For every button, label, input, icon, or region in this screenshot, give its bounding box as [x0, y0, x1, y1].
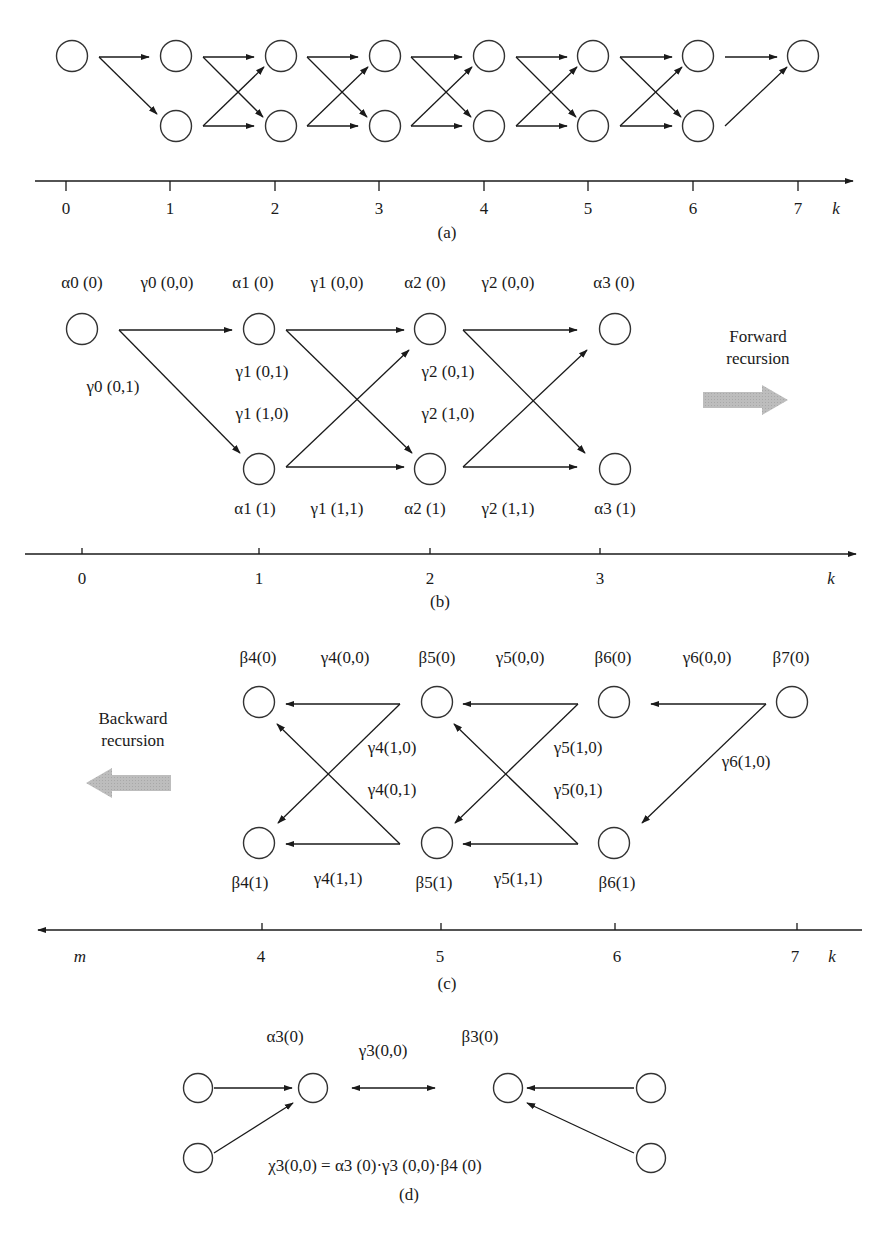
tick-a-6: 6	[689, 199, 698, 218]
label-alpha0-0: α0 (0)	[61, 273, 102, 292]
tick-b-3: 3	[596, 569, 605, 588]
label-beta4-1: β4(1)	[232, 873, 269, 892]
node-b-k1-s1	[244, 454, 275, 485]
node-d-right-top	[637, 1074, 666, 1103]
node-d-left-bottom	[184, 1144, 213, 1173]
tick-c-4: 4	[257, 947, 266, 966]
label-gamma0-00: γ0 (0,0)	[140, 273, 194, 292]
label-gamma4-00: γ4(0,0)	[320, 648, 370, 667]
label-alpha3-0-d: α3(0)	[266, 1027, 303, 1046]
label-gamma6-10: γ6(1,0)	[721, 752, 771, 771]
panel-b-nodes	[67, 314, 631, 485]
label-gamma4-11: γ4(1,1)	[313, 869, 363, 888]
tick-b-0: 0	[78, 569, 87, 588]
panel-c-top-labels: β4(0) γ4(0,0) β5(0) γ5(0,0) β6(0) γ6(0,0…	[240, 648, 810, 667]
node-d-left-top	[184, 1074, 213, 1103]
tick-c-7: 7	[791, 947, 800, 966]
label-alpha3-0: α3 (0)	[593, 273, 634, 292]
tick-a-5: 5	[584, 199, 593, 218]
tick-a-2: 2	[271, 199, 280, 218]
label-gamma1-11: γ1 (1,1)	[310, 499, 364, 518]
node-b-k1-s0	[244, 314, 275, 345]
label-gamma4-01: γ4(0,1)	[367, 780, 417, 799]
node-b-k2-s1	[415, 454, 446, 485]
axis-c-start-label: m	[74, 947, 86, 966]
tick-a-4: 4	[480, 199, 489, 218]
label-beta3-0-d: β3(0)	[462, 1027, 499, 1046]
label-gamma2-11: γ2 (1,1)	[481, 499, 535, 518]
panel-d: α3(0) γ3(0,0) β3(0) χ3(0,0) = α3 (0)·γ3 …	[184, 1027, 666, 1204]
label-gamma2-10: γ2 (1,0)	[421, 404, 475, 423]
node-b-k2-s0	[415, 314, 446, 345]
node-a-k0-s0	[57, 41, 88, 72]
label-gamma5-10: γ5(1,0)	[553, 738, 603, 757]
label-gamma5-01: γ5(0,1)	[553, 780, 603, 799]
node-a-k2-s0	[266, 41, 297, 72]
backward-label-line1: Backward	[99, 709, 168, 728]
node-a-k1-s1	[161, 111, 192, 142]
tick-a-3: 3	[375, 199, 384, 218]
formula: χ3(0,0) = α3 (0)·γ3 (0,0)·β4 (0)	[267, 1156, 482, 1175]
label-beta7-0: β7(0)	[773, 648, 810, 667]
backward-label-line2: recursion	[101, 731, 165, 750]
panel-d-edges	[214, 1088, 634, 1153]
label-gamma2-00: γ2 (0,0)	[481, 273, 535, 292]
tick-b-2: 2	[426, 569, 435, 588]
tick-a-7: 7	[794, 199, 803, 218]
axis-b-label: k	[827, 569, 835, 588]
node-c-k7-s0	[777, 687, 808, 718]
node-a-k4-s1	[474, 111, 505, 142]
tick-a-1: 1	[166, 199, 175, 218]
panel-b-top-labels: α0 (0) γ0 (0,0) α1 (0) γ1 (0,0) α2 (0) γ…	[61, 273, 634, 292]
panel-c-mid-labels: γ4(1,0) γ4(0,1) γ5(1,0) γ5(0,1) γ6(1,0)	[367, 738, 771, 799]
panel-c-edges	[277, 704, 766, 844]
node-c-k6-s1	[599, 828, 630, 859]
tick-a-0: 0	[62, 199, 71, 218]
tick-c-5: 5	[436, 947, 445, 966]
caption-b: (b)	[430, 592, 450, 611]
label-alpha1-0: α1 (0)	[232, 273, 273, 292]
label-beta5-1: β5(1)	[416, 873, 453, 892]
caption-d: (d)	[399, 1185, 419, 1204]
node-b-k3-s1	[600, 454, 631, 485]
forward-label-line1: Forward	[729, 327, 787, 346]
node-d-right-bottom	[637, 1144, 666, 1173]
node-a-k7-s0	[788, 41, 819, 72]
panel-b-mid-labels: γ0 (0,1) γ1 (0,1) γ1 (1,0) γ2 (0,1) γ2 (…	[86, 362, 475, 423]
label-gamma0-01: γ0 (0,1)	[86, 377, 140, 396]
forward-arrow-icon	[703, 385, 788, 415]
label-gamma4-10: γ4(1,0)	[367, 738, 417, 757]
node-c-k5-s0	[422, 687, 453, 718]
node-b-k0-s0	[67, 314, 98, 345]
panel-c-axis: m 4 5 6 7 k	[38, 923, 862, 966]
node-b-k3-s0	[600, 314, 631, 345]
node-d-alpha	[299, 1074, 328, 1103]
node-c-k6-s0	[599, 687, 630, 718]
backward-recursion-indicator: Backward recursion	[86, 709, 171, 798]
backward-arrow-icon	[86, 768, 171, 798]
node-a-k6-s1	[683, 111, 714, 142]
node-a-k3-s0	[370, 41, 401, 72]
panel-b-bottom-labels: α1 (1) γ1 (1,1) α2 (1) γ2 (1,1) α3 (1)	[234, 499, 635, 518]
label-gamma5-00: γ5(0,0)	[495, 648, 545, 667]
node-a-k5-s1	[578, 111, 609, 142]
label-gamma1-10: γ1 (1,0)	[235, 404, 289, 423]
label-alpha2-1: α2 (1)	[404, 499, 445, 518]
trellis-figure: 0 1 2 3 4 5 6 7 k (a) α0 (0) γ0 (0,0) α1…	[0, 0, 894, 1237]
node-c-k4-s1	[244, 828, 275, 859]
panel-c: β4(0) γ4(0,0) β5(0) γ5(0,0) β6(0) γ6(0,0…	[38, 648, 862, 993]
label-alpha2-0: α2 (0)	[404, 273, 445, 292]
forward-recursion-indicator: Forward recursion	[703, 327, 790, 415]
tick-c-6: 6	[613, 947, 622, 966]
node-d-beta	[494, 1074, 523, 1103]
node-c-k4-s0	[244, 687, 275, 718]
axis-a-label: k	[832, 199, 840, 218]
tick-b-1: 1	[255, 569, 264, 588]
panel-a-edges	[99, 57, 787, 126]
node-a-k2-s1	[266, 111, 297, 142]
caption-c: (c)	[438, 974, 457, 993]
caption-a: (a)	[438, 223, 457, 242]
panel-c-nodes	[244, 687, 808, 859]
panel-a: 0 1 2 3 4 5 6 7 k (a)	[35, 41, 853, 243]
label-beta6-1: β6(1)	[599, 873, 636, 892]
